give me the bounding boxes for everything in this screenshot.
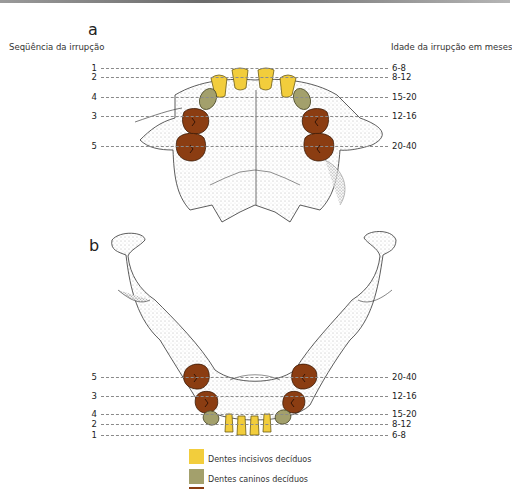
eruption-age: 20-40	[392, 372, 417, 382]
canine-swatch-icon	[189, 469, 204, 484]
lower-row-3: 4 15-20	[0, 414, 510, 424]
guide-line	[101, 97, 388, 98]
guide-line	[101, 77, 388, 78]
guide-line	[101, 116, 388, 117]
eruption-age: 8-12	[392, 419, 411, 429]
incisor-swatch-icon	[189, 449, 204, 464]
eruption-age: 8-12	[392, 72, 411, 82]
sequence-number: 1	[89, 430, 97, 440]
upper-row-2: 2 8-12	[0, 77, 510, 87]
eruption-age: 15-20	[392, 92, 417, 102]
sequence-number: 5	[89, 372, 97, 382]
eruption-age: 15-20	[392, 409, 417, 419]
upper-row-3: 4 15-20	[0, 97, 510, 107]
sequence-number: 3	[89, 391, 97, 401]
sequence-number: 5	[89, 141, 97, 151]
eruption-age: 12-16	[392, 391, 417, 401]
legend-label: Dentes caninos decíduos	[208, 475, 308, 484]
eruption-age: 20-40	[392, 141, 417, 151]
guide-line	[101, 68, 388, 69]
eruption-age: 12-16	[392, 111, 417, 121]
guide-line	[101, 414, 388, 415]
lower-row-2: 3 12-16	[0, 396, 510, 406]
guide-line	[101, 435, 388, 436]
lower-jaw-bone	[112, 232, 396, 421]
sequence-number: 3	[89, 111, 97, 121]
lower-row-1: 5 20-40	[0, 377, 510, 387]
eruption-age: 6-8	[392, 430, 406, 440]
panel-b-label: b	[89, 236, 99, 255]
lower-row-4: 2 8-12	[0, 424, 510, 434]
sequence-number: 4	[89, 92, 97, 102]
upper-row-5: 5 20-40	[0, 146, 510, 156]
legend-label: Dentes incisivos decíduos	[208, 455, 311, 464]
sequence-number: 4	[89, 409, 97, 419]
guide-line	[101, 424, 388, 425]
guide-line	[101, 146, 388, 147]
guide-line	[101, 396, 388, 397]
sequence-number: 2	[89, 72, 97, 82]
sequence-number: 2	[89, 419, 97, 429]
upper-row-4: 3 12-16	[0, 116, 510, 126]
lower-row-5: 1 6-8	[0, 435, 510, 445]
guide-line	[101, 377, 388, 378]
